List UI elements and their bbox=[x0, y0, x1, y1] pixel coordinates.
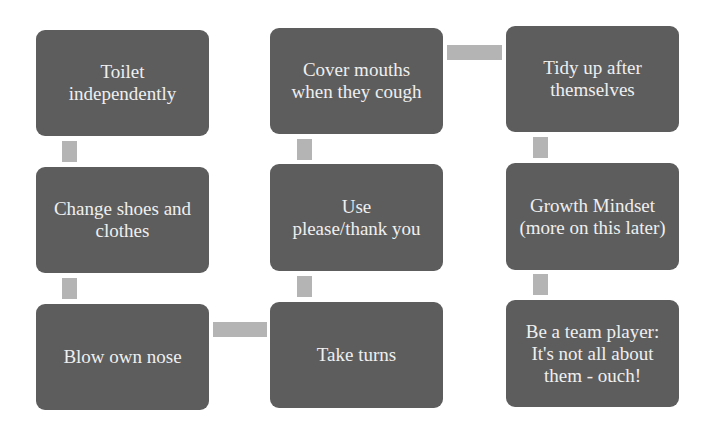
connector-n5-n6 bbox=[297, 139, 312, 160]
node-label: Growth Mindset (more on this later) bbox=[518, 195, 667, 239]
node-label: Use please/thank you bbox=[292, 196, 421, 240]
node-label: Take turns bbox=[317, 344, 396, 366]
node-growth-mindset: Growth Mindset (more on this later) bbox=[506, 163, 679, 270]
node-label: Be a team player: It's not all about the… bbox=[516, 321, 669, 387]
node-label: Tidy up after themselves bbox=[526, 57, 659, 101]
connector-n3-n4 bbox=[213, 322, 267, 337]
connector-n2-n3 bbox=[62, 278, 77, 299]
node-label: Cover mouths when they cough bbox=[286, 59, 427, 103]
node-please-thank-you: Use please/thank you bbox=[270, 164, 443, 271]
node-cover-mouths: Cover mouths when they cough bbox=[270, 28, 443, 134]
node-label: Toilet independently bbox=[48, 61, 197, 105]
connector-n7-n8 bbox=[533, 137, 548, 158]
connector-n1-n2 bbox=[62, 141, 77, 162]
node-toilet-independently: Toilet independently bbox=[36, 30, 209, 136]
connector-n6-n7 bbox=[447, 45, 502, 60]
node-label: Blow own nose bbox=[63, 346, 181, 368]
node-blow-nose: Blow own nose bbox=[36, 304, 209, 410]
node-label: Change shoes and clothes bbox=[48, 198, 197, 242]
node-take-turns: Take turns bbox=[270, 302, 443, 408]
node-change-shoes: Change shoes and clothes bbox=[36, 167, 209, 273]
node-team-player: Be a team player: It's not all about the… bbox=[506, 300, 679, 407]
connector-n8-n9 bbox=[533, 274, 548, 295]
node-tidy-up: Tidy up after themselves bbox=[506, 26, 679, 132]
connector-n4-n5 bbox=[297, 276, 312, 297]
